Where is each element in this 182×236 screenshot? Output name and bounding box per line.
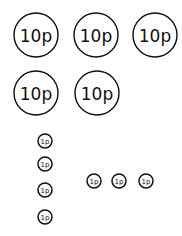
one-penny-coin: 1p (112, 174, 126, 188)
ten-pence-coin: 10p (74, 13, 118, 57)
one-penny-coin: 1p (139, 174, 153, 188)
coin-value-label: 1p (90, 178, 99, 186)
coin-value-label: 1p (41, 138, 50, 146)
ten-pence-group: 10p10p10p10p10p (14, 13, 177, 115)
coin-value-label: 1p (115, 178, 124, 186)
coin-value-label: 10p (80, 26, 112, 46)
ten-pence-coin: 10p (75, 71, 119, 115)
ten-pence-coin: 10p (14, 71, 58, 115)
one-penny-coin: 1p (87, 174, 101, 188)
one-penny-row-group: 1p1p1p (87, 174, 153, 188)
one-penny-column-group: 1p1p1p1p (38, 134, 52, 224)
coin-value-label: 1p (142, 178, 151, 186)
coin-value-label: 10p (20, 26, 52, 46)
ten-pence-coin: 10p (133, 13, 177, 57)
one-penny-coin: 1p (38, 183, 52, 197)
coin-value-label: 10p (20, 84, 52, 104)
coin-value-label: 1p (41, 187, 50, 195)
ten-pence-coin: 10p (14, 13, 58, 57)
coin-value-label: 10p (139, 26, 171, 46)
coin-value-label: 10p (81, 84, 113, 104)
coin-value-label: 1p (41, 161, 50, 169)
one-penny-coin: 1p (38, 134, 52, 148)
one-penny-coin: 1p (38, 157, 52, 171)
one-penny-coin: 1p (38, 210, 52, 224)
coin-value-label: 1p (41, 214, 50, 222)
coins-diagram: 10p10p10p10p10p1p1p1p1p1p1p1p (0, 0, 182, 236)
